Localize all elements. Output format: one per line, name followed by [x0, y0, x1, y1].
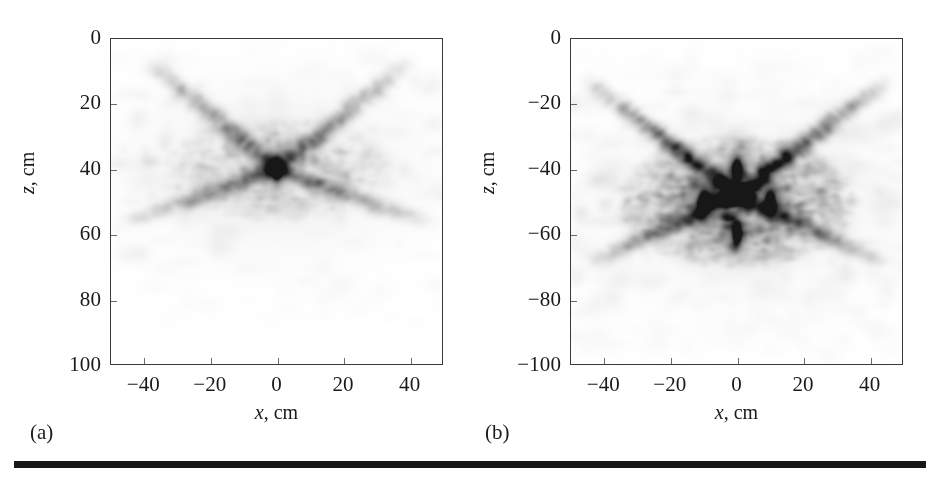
x-tick-inner-a-0 — [144, 358, 145, 364]
x-tick-label-b-0: −40 — [587, 372, 620, 396]
y-tick-label-a-1: 20 — [80, 92, 101, 113]
y-tick-inner-a-2 — [111, 170, 117, 171]
y-tick-inner-a-1 — [111, 104, 117, 105]
y-axis-title-a: z, cm — [16, 168, 38, 194]
x-axis-title-variable-b: x — [715, 401, 724, 423]
x-tick-label-b-2: 0 — [731, 372, 742, 396]
x-tick-inner-b-3 — [804, 358, 805, 364]
x-tick-label-b-3: 20 — [792, 372, 813, 396]
x-tick-inner-a-3 — [344, 358, 345, 364]
y-tick-label-a-5: 100 — [69, 354, 101, 375]
panel-label-b: (b) — [485, 420, 510, 444]
y-tick-label-b-0: 0 — [550, 27, 561, 48]
x-tick-inner-b-0 — [604, 358, 605, 364]
panel-b: 0−20−40−60−80−100 −40−2002040 x, cm z, c… — [460, 0, 928, 455]
y-tick-inner-b-1 — [571, 104, 577, 105]
y-axis-title-unit-b: , cm — [476, 152, 498, 186]
x-tick-label-a-3: 20 — [332, 372, 353, 396]
y-axis-title-b: z, cm — [476, 168, 498, 194]
bottom-horizontal-rule — [14, 461, 926, 468]
x-tick-b-1 — [671, 364, 672, 365]
x-axis-title-unit-b: , cm — [724, 401, 758, 423]
y-axis-tick-labels-a: 020406080100 — [0, 38, 101, 365]
x-tick-a-3 — [344, 364, 345, 365]
y-tick-label-b-2: −40 — [528, 158, 561, 179]
heatmap-image-b — [571, 39, 902, 364]
x-tick-label-b-1: −20 — [653, 372, 686, 396]
x-axis-tick-labels-b: −40−2002040 — [570, 372, 903, 398]
x-tick-b-0 — [604, 364, 605, 365]
x-tick-label-b-4: 40 — [859, 372, 880, 396]
x-tick-label-a-0: −40 — [127, 372, 160, 396]
y-tick-a-0 — [110, 39, 111, 40]
x-axis-title-a: x, cm — [110, 401, 443, 423]
y-tick-label-a-3: 60 — [80, 223, 101, 244]
x-tick-a-2 — [278, 364, 279, 365]
y-tick-b-5 — [570, 365, 571, 366]
x-axis-title-unit-a: , cm — [264, 401, 298, 423]
y-tick-inner-a-4 — [111, 301, 117, 302]
x-tick-inner-a-2 — [278, 358, 279, 364]
x-axis-tick-labels-a: −40−2002040 — [110, 372, 443, 398]
x-tick-a-1 — [211, 364, 212, 365]
x-tick-inner-b-4 — [871, 358, 872, 364]
x-axis-title-variable-a: x — [255, 401, 264, 423]
x-tick-label-a-4: 40 — [399, 372, 420, 396]
panel-label-a: (a) — [30, 420, 53, 444]
y-tick-label-a-2: 40 — [80, 158, 101, 179]
y-tick-label-a-0: 0 — [90, 27, 101, 48]
y-tick-label-b-3: −60 — [528, 223, 561, 244]
plot-frame-a — [110, 38, 443, 365]
heatmap-image-a — [111, 39, 442, 364]
y-tick-label-a-4: 80 — [80, 289, 101, 310]
x-tick-inner-b-2 — [738, 358, 739, 364]
y-tick-a-5 — [110, 365, 111, 366]
x-tick-b-4 — [871, 364, 872, 365]
plot-frame-b — [570, 38, 903, 365]
x-tick-inner-b-1 — [671, 358, 672, 364]
y-tick-label-b-5: −100 — [517, 354, 561, 375]
y-axis-tick-labels-b: 0−20−40−60−80−100 — [460, 38, 561, 365]
y-axis-title-variable-a: z — [16, 186, 38, 194]
y-axis-title-variable-b: z — [476, 186, 498, 194]
x-tick-a-0 — [144, 364, 145, 365]
x-tick-label-a-2: 0 — [271, 372, 282, 396]
y-tick-inner-b-4 — [571, 301, 577, 302]
figure-root: 020406080100 −40−2002040 x, cm z, cm (a)… — [0, 0, 937, 479]
y-axis-title-unit-a: , cm — [16, 152, 38, 186]
x-tick-a-4 — [411, 364, 412, 365]
x-tick-inner-a-1 — [211, 358, 212, 364]
x-tick-b-3 — [804, 364, 805, 365]
y-tick-b-0 — [570, 39, 571, 40]
panel-a: 020406080100 −40−2002040 x, cm z, cm (a) — [0, 0, 468, 455]
x-tick-b-2 — [738, 364, 739, 365]
x-tick-inner-a-4 — [411, 358, 412, 364]
x-tick-label-a-1: −20 — [193, 372, 226, 396]
y-tick-label-b-1: −20 — [528, 92, 561, 113]
y-tick-inner-b-2 — [571, 170, 577, 171]
y-tick-inner-a-3 — [111, 235, 117, 236]
x-axis-title-b: x, cm — [570, 401, 903, 423]
y-tick-label-b-4: −80 — [528, 289, 561, 310]
y-tick-inner-b-3 — [571, 235, 577, 236]
